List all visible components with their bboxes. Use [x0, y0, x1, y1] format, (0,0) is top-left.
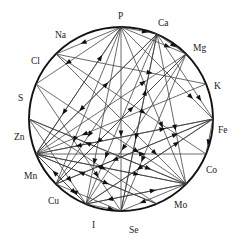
arrowhead-I-to-Ca [142, 89, 147, 96]
node-label-Na[interactable]: Na [55, 30, 67, 40]
arrowhead-Cl-to-I [93, 171, 98, 177]
arrowhead-Se-to-Zn [79, 172, 86, 177]
node-label-Zn[interactable]: Zn [14, 132, 25, 142]
edge-S-to-Se [29, 119, 157, 204]
node-label-Co[interactable]: Co [206, 165, 217, 175]
arrowhead-S-to-Mo [145, 165, 152, 170]
node-label-Mo[interactable]: Mo [174, 200, 187, 210]
edge-Cl-to-I [36, 84, 121, 211]
node-label-K[interactable]: K [214, 81, 221, 91]
edge-P-to-Mn [56, 27, 121, 184]
arrowhead-K-to-Zn [82, 131, 89, 136]
node-label-P[interactable]: P [118, 11, 123, 21]
arrowhead-Zn-to-Fe [159, 127, 166, 132]
node-label-Cu[interactable]: Cu [48, 196, 59, 206]
arrowhead-Ca-to-Mo [172, 124, 177, 131]
node-label-Cl[interactable]: Cl [31, 56, 40, 66]
edge-group [29, 27, 213, 211]
arrowhead-Cu-to-Mo [149, 189, 156, 194]
mineral-interaction-diagram: PCaMgKFeCoMoSeICuMnZnSClNa [0, 0, 244, 242]
arrowhead-Zn-to-P [97, 55, 102, 61]
node-label-Mn[interactable]: Mn [24, 171, 37, 181]
arrowhead-P-to-I [119, 131, 124, 137]
arrowhead-Zn-to-Se [102, 180, 109, 185]
arrowhead-Ca-to-Fe [196, 95, 201, 101]
node-label-Ca[interactable]: Ca [158, 18, 169, 28]
arrowhead-P-to-Na [80, 39, 87, 44]
node-label-Se[interactable]: Se [129, 225, 139, 235]
arrowhead-Mg-to-Cu [122, 144, 127, 150]
arrowhead-I-to-Mn [72, 191, 79, 196]
node-label-S[interactable]: S [18, 93, 23, 103]
node-label-I[interactable]: I [92, 220, 95, 230]
arrowhead-Ca-to-Cu [105, 152, 110, 159]
edge-P-to-Cl [36, 27, 121, 84]
arrowhead-S-to-Cu [66, 176, 71, 182]
diagram-canvas: PCaMgKFeCoMoSeICuMnZnSClNa [0, 0, 244, 242]
arrowhead-Zn-to-Mo [133, 171, 140, 176]
node-label-Fe[interactable]: Fe [218, 125, 228, 135]
arrowhead-Zn-to-Co [139, 152, 145, 157]
arrowhead-P-to-Zn [62, 108, 67, 114]
arrowhead-P-to-Mg [164, 43, 171, 48]
node-label-Mg[interactable]: Mg [193, 43, 206, 53]
arrowhead-Mo-to-Cu [107, 196, 114, 201]
arrowhead-Ca-to-Mn [88, 131, 93, 137]
